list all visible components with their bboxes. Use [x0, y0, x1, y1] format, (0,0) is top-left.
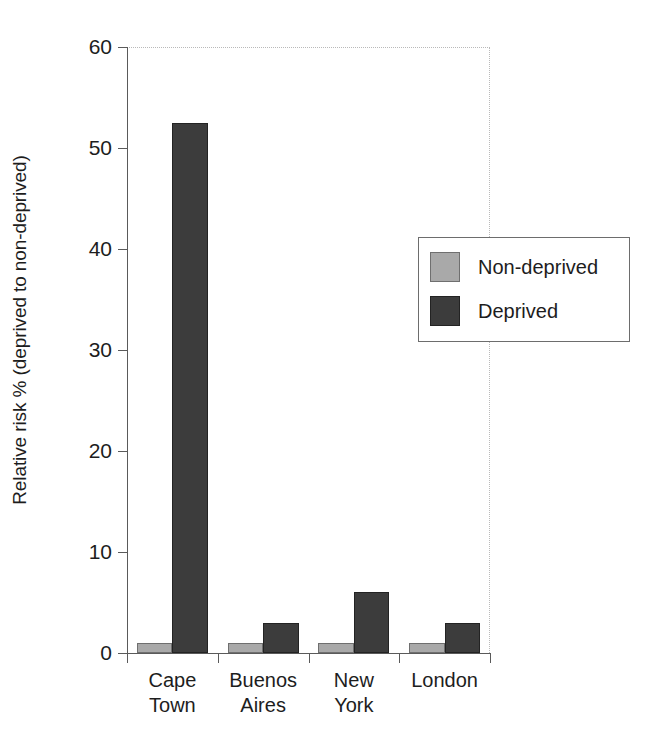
legend-label-deprived: Deprived: [478, 300, 558, 323]
legend-label-non-deprived: Non-deprived: [478, 256, 598, 279]
x-axis-category-label: New York: [309, 668, 400, 718]
x-axis-tick: [399, 653, 400, 663]
chart-figure: Relative risk % (deprived to non-deprive…: [0, 0, 652, 752]
x-axis-tick: [127, 653, 128, 663]
x-axis-category-label: Cape Town: [127, 668, 218, 718]
legend-swatch-deprived: [430, 296, 460, 326]
bar-deprived-new-york: [354, 592, 389, 653]
bar-deprived-london: [445, 623, 480, 653]
bar-deprived-buenos-aires: [263, 623, 298, 653]
legend-item-deprived: Deprived: [430, 296, 558, 326]
legend-swatch-non-deprived: [430, 252, 460, 282]
chart-legend: Non-deprived Deprived: [418, 237, 630, 342]
legend-item-non-deprived: Non-deprived: [430, 252, 598, 282]
bar-non-deprived-buenos-aires: [228, 643, 263, 653]
x-axis-tick: [490, 653, 491, 663]
bar-non-deprived-cape-town: [137, 643, 172, 653]
x-axis-category-label: London: [399, 668, 490, 693]
x-axis-tick: [218, 653, 219, 663]
x-axis-category-label: Buenos Aires: [218, 668, 309, 718]
bar-non-deprived-new-york: [318, 643, 353, 653]
y-axis-tick: [118, 653, 127, 654]
bar-non-deprived-london: [409, 643, 444, 653]
bar-deprived-cape-town: [172, 123, 207, 653]
x-axis-tick: [309, 653, 310, 663]
